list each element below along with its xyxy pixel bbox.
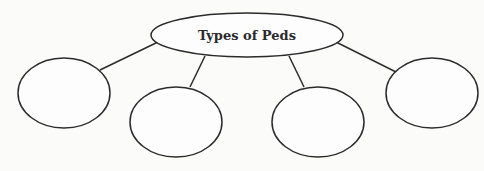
child-node-1[interactable] — [18, 58, 110, 128]
concept-map-diagram: Types of Peds — [0, 0, 484, 171]
connector-line-4 — [336, 42, 396, 72]
child-node-3[interactable] — [272, 87, 364, 157]
child-node-4[interactable] — [386, 58, 478, 128]
connector-line-2 — [190, 56, 205, 87]
child-node-2[interactable] — [130, 87, 222, 157]
connector-line-3 — [289, 56, 304, 87]
connector-line-1 — [100, 42, 158, 70]
center-node-label: Types of Peds — [198, 28, 296, 43]
